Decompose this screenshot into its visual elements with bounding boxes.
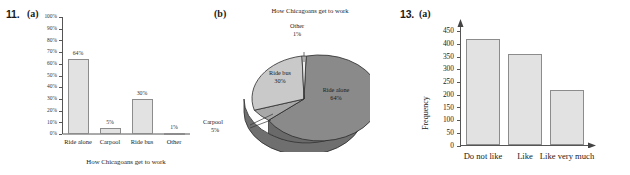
pie-callout-carpool-label: Carpool xyxy=(203,118,223,125)
pie-chart-title: How Chicagoans get to work xyxy=(230,8,390,15)
chart-a-tick xyxy=(59,64,62,65)
chart-c-tick xyxy=(457,44,461,45)
chart-a-tick-label: 80% xyxy=(28,38,57,43)
exercise-number-11: 11. xyxy=(6,8,19,20)
chart-c-tick-label: 300 xyxy=(426,65,454,72)
exercise-13a-panel: 13. (a) Frequency 0501001502002503003504… xyxy=(400,0,630,175)
pie-label-ride-alone-value: 64% xyxy=(330,94,341,101)
chart-c-tick-label: 350 xyxy=(426,53,454,60)
chart-a-tick xyxy=(59,99,62,100)
chart-a-tick xyxy=(59,134,62,135)
chart-a-tick xyxy=(59,40,62,41)
chart-a-value-label: 30% xyxy=(124,91,160,97)
chart-a-tick-label: 100% xyxy=(28,14,57,19)
bar-chart-chicagoans: 0%10%20%30%40%50%60%70%80%90%100% 64%5%3… xyxy=(62,17,190,145)
pie-label-ride-alone-text: Ride alone xyxy=(323,86,350,93)
pie-label-ride-bus-value: 30% xyxy=(274,77,285,84)
pie-callout-other: Other 1% xyxy=(262,22,332,38)
chart-c-tick xyxy=(457,69,461,70)
chart-c-tick-label: 400 xyxy=(426,40,454,47)
chart-a-tick-label: 10% xyxy=(28,120,57,125)
chart-c-bar xyxy=(466,39,500,146)
exercise-part-b: (b) xyxy=(214,8,226,19)
chart-c-tick xyxy=(457,133,461,134)
chart-a-tick-label: 40% xyxy=(28,84,57,89)
chart-c-category-label: Like very much xyxy=(533,152,601,161)
chart-a-bar xyxy=(100,128,121,134)
exercise-part-13a: (a) xyxy=(419,8,431,19)
pie-label-ride-alone: Ride alone 64% xyxy=(310,86,362,102)
chart-a-bar xyxy=(132,99,153,134)
pie-label-ride-bus: Ride bus 30% xyxy=(254,69,306,85)
chart-c-tick xyxy=(457,146,461,147)
pie-label-ride-bus-text: Ride bus xyxy=(269,69,291,76)
chart-c-tick-label: 250 xyxy=(426,78,454,85)
y-axis-arrow xyxy=(458,19,464,27)
chart-c-y-axis-title: Frequency xyxy=(422,96,430,130)
exercise-11b-panel: (b) How Chicagoans get to work Other 1% … xyxy=(210,0,400,175)
chart-c-tick-label: 450 xyxy=(426,27,454,34)
bar-chart-frequency: 050100150200250300350400450 xyxy=(448,18,596,148)
chart-c-tick-label: 0 xyxy=(426,142,454,149)
chart-a-value-label: 1% xyxy=(156,125,192,131)
chart-c-tick-label: 150 xyxy=(426,104,454,111)
chart-a-tick-label: 60% xyxy=(28,61,57,66)
chart-a-tick-label: 30% xyxy=(28,96,57,101)
exercise-11a-panel: 11. (a) 0%10%20%30%40%50%60%70%80%90%100… xyxy=(0,0,210,175)
chart-c-tick xyxy=(457,95,461,96)
chart-a-tick-label: 20% xyxy=(28,108,57,113)
chart-a-tick xyxy=(59,87,62,88)
chart-a-tick xyxy=(59,76,62,77)
chart-a-tick xyxy=(59,111,62,112)
chart-c-bar xyxy=(508,54,542,146)
pie-callout-other-value: 1% xyxy=(293,30,301,37)
chart-c-bar xyxy=(550,90,584,146)
chart-a-tick-label: 0% xyxy=(28,131,57,136)
chart-c-tick xyxy=(457,57,461,58)
chart-c-tick-label: 100 xyxy=(426,116,454,123)
chart-a-tick-label: 90% xyxy=(28,26,57,31)
exercise-number-13: 13. xyxy=(400,8,414,20)
chart-a-bar xyxy=(164,133,185,135)
x-axis-arrow xyxy=(588,143,596,149)
chart-a-tick-label: 50% xyxy=(28,73,57,78)
chart-c-tick xyxy=(457,82,461,83)
chart-c-tick xyxy=(457,31,461,32)
chart-a-bar xyxy=(68,59,89,134)
chart-a-value-label: 64% xyxy=(60,51,96,57)
chart-a-tick xyxy=(59,122,62,123)
chart-c-tick-label: 200 xyxy=(426,91,454,98)
chart-a-value-label: 5% xyxy=(92,120,128,126)
chart-a-category-label: Other xyxy=(155,139,193,145)
chart-a-x-axis-title: How Chicagoans get to work xyxy=(62,159,190,166)
chart-c-tick xyxy=(457,107,461,108)
pie-chart-chicagoans: Ride alone 64% Ride bus 30% xyxy=(238,42,370,152)
chart-a-tick xyxy=(59,29,62,30)
chart-a-tick xyxy=(59,17,62,18)
chart-c-tick-label: 50 xyxy=(426,129,454,136)
figure-page: 11. (a) 0%10%20%30%40%50%60%70%80%90%100… xyxy=(0,0,630,175)
chart-c-tick xyxy=(457,120,461,121)
chart-a-tick-label: 70% xyxy=(28,49,57,54)
pie-callout-other-label: Other xyxy=(290,22,304,29)
pie-callout-carpool-value: 5% xyxy=(211,126,219,134)
